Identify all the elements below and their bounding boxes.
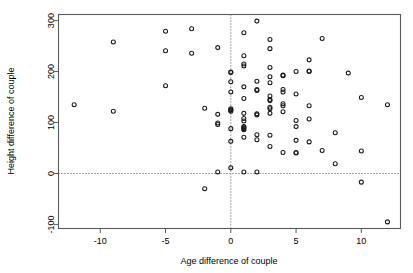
y-tick-label: 0: [46, 171, 56, 176]
y-axis-title: Height difference of couple: [6, 68, 16, 175]
y-tick-label: 100: [46, 115, 56, 130]
chart-canvas: -10-50510 -1000100200300 Age difference …: [0, 0, 413, 273]
y-tick-label: -100: [46, 215, 56, 233]
x-tick-label: -10: [94, 236, 107, 246]
x-axis-title: Age difference of couple: [181, 256, 278, 266]
chart-background: [0, 0, 413, 273]
y-tick-label: 300: [46, 13, 56, 28]
y-tick-label: 200: [46, 64, 56, 79]
scatter-plot-figure: -10-50510 -1000100200300 Age difference …: [0, 0, 413, 273]
x-tick-label: 5: [294, 236, 299, 246]
x-tick-label: 0: [228, 236, 233, 246]
x-tick-label: -5: [162, 236, 170, 246]
x-tick-label: 10: [356, 236, 366, 246]
